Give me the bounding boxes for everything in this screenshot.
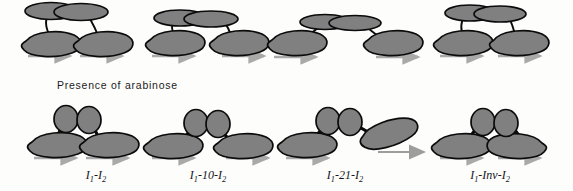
arac-subunit-right (77, 107, 101, 134)
bottom-panel-3 (278, 108, 422, 159)
arabinose-caption: Presence of arabinose (57, 79, 178, 91)
operator-blob-left (22, 32, 81, 57)
arac-subunit-right (474, 6, 526, 22)
operator-blob-right (364, 31, 423, 56)
arac-subunit-right (54, 4, 108, 21)
operator-blob-left (432, 134, 491, 159)
panel-label-i1-21-i2: I1-21-I2 (327, 168, 363, 183)
operator-blob-left (146, 31, 205, 56)
label-sub: 1 (474, 175, 478, 184)
operator-blob-right (74, 32, 133, 57)
panel-label-i1-10-i2: I1-10-I2 (190, 168, 226, 183)
arac-subunit-left (54, 106, 78, 133)
operator-blob-right (80, 133, 139, 158)
diagram-svg (0, 0, 573, 191)
bottom-panel-2 (144, 110, 273, 159)
arac-subunit-right (338, 109, 362, 136)
label-sub: 1 (331, 175, 335, 184)
label-part: -21- (335, 168, 355, 182)
operator-blob-right-tilted (357, 113, 422, 155)
bottom-panel-1 (28, 106, 139, 159)
operator-blob-left (268, 31, 327, 56)
arac-subunit-left (184, 110, 208, 137)
top-panel-1 (22, 3, 133, 57)
label-sub: 2 (222, 175, 226, 184)
operator-blob-left (434, 31, 493, 56)
arac-subunit-right (184, 11, 238, 27)
arac-subunit-left (316, 108, 340, 135)
label-part: -10- (198, 168, 218, 182)
operator-blob-left (278, 133, 337, 158)
panel-label-i1-i2: I1-I2 (86, 168, 106, 183)
operator-blob-left (28, 133, 87, 158)
panel-label-i1-inv-i2: I1-Inv-I2 (470, 168, 510, 183)
top-panel-2 (146, 10, 269, 56)
operator-blob-left (144, 134, 203, 159)
arac-subunit-right (329, 16, 381, 31)
label-part: -Inv- (478, 168, 501, 182)
arac-subunit-left (471, 109, 495, 136)
label-sub: 2 (359, 175, 363, 184)
label-sub: 2 (102, 175, 106, 184)
operator-blob-right (490, 31, 549, 56)
operator-blob-right (210, 31, 269, 56)
figure-canvas: Presence of arabinose I1-I2 I1-10-I2 I1-… (0, 0, 573, 191)
label-sub: 2 (506, 175, 510, 184)
label-sub: 1 (194, 175, 198, 184)
bottom-panel-4 (432, 109, 547, 159)
operator-blob-right-inverted (487, 134, 546, 159)
top-panel-3 (268, 15, 423, 58)
arac-subunit-right (494, 110, 518, 137)
label-sub: 1 (90, 175, 94, 184)
top-panel-4 (434, 5, 549, 56)
arac-subunit-right (206, 111, 230, 138)
